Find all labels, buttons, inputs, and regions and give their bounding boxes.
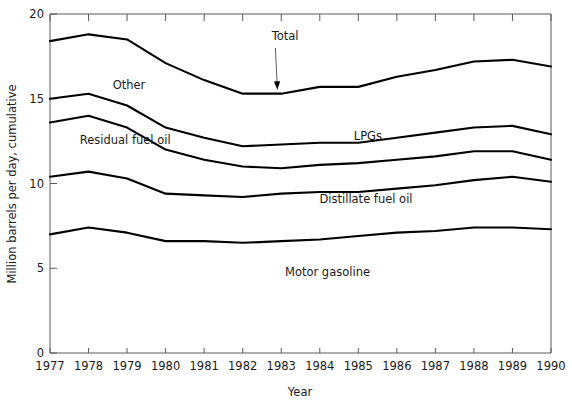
x-tick-label: 1986 xyxy=(382,359,411,373)
y-tick-label: 5 xyxy=(37,261,44,275)
x-tick-label: 1982 xyxy=(228,359,257,373)
y-tick-label: 20 xyxy=(29,7,44,21)
y-axis-ticks: 05101520 xyxy=(29,7,57,360)
x-tick-label: 1985 xyxy=(344,359,373,373)
series-band-label: Other xyxy=(113,78,146,92)
x-tick-label: 1988 xyxy=(459,359,488,373)
x-tick-label: 1987 xyxy=(421,359,450,373)
chart-container: 05101520 1977197819791980198119821983198… xyxy=(0,0,572,401)
x-tick-label: 1977 xyxy=(35,359,64,373)
annotation-label-total: Total xyxy=(271,29,299,43)
series-band-label: Residual fuel oil xyxy=(80,133,171,147)
y-tick-label: 0 xyxy=(37,346,44,360)
x-axis-title: Year xyxy=(287,385,313,399)
x-tick-label: 1984 xyxy=(305,359,334,373)
annotation-arrow-head xyxy=(274,81,280,89)
x-tick-label: 1983 xyxy=(267,359,296,373)
x-tick-label: 1990 xyxy=(536,359,565,373)
series-band-label: Motor gasoline xyxy=(285,265,370,279)
y-tick-label: 10 xyxy=(29,177,44,191)
y-axis-title: Million barrels per day, cumulative xyxy=(5,84,19,283)
x-tick-label: 1978 xyxy=(74,359,103,373)
y-tick-label: 15 xyxy=(29,92,44,106)
cumulative-line-chart: 05101520 1977197819791980198119821983198… xyxy=(0,0,572,401)
series-line xyxy=(50,172,551,197)
plot-border xyxy=(50,14,551,353)
chart-annotations: Total xyxy=(271,29,299,89)
series-band-label: Distillate fuel oil xyxy=(319,192,412,206)
x-tick-label: 1981 xyxy=(190,359,219,373)
plot-frame xyxy=(50,14,551,353)
series-band-label: LPGs xyxy=(354,129,382,143)
x-tick-label: 1989 xyxy=(498,359,527,373)
x-tick-label: 1979 xyxy=(112,359,141,373)
series-line xyxy=(50,228,551,243)
x-tick-label: 1980 xyxy=(151,359,180,373)
